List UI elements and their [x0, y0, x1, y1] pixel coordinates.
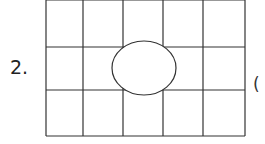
center-ellipse [112, 41, 176, 95]
answer-paren: ( [253, 74, 260, 94]
grid-figure [0, 0, 265, 144]
